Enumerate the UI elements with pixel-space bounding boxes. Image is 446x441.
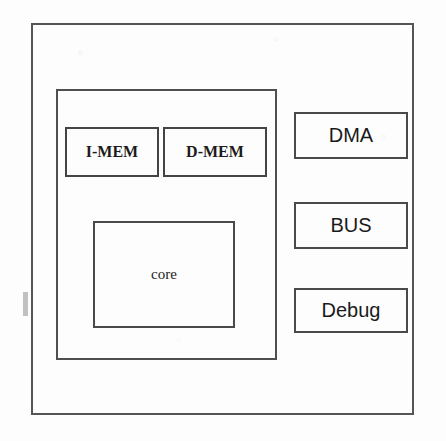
block-core[interactable]: core [93,221,235,328]
block-core-label: core [151,266,177,283]
block-i-mem[interactable]: I-MEM [65,127,159,177]
block-debug[interactable]: Debug [294,288,408,333]
block-d-mem-label: D-MEM [186,143,244,161]
block-dma[interactable]: DMA [294,112,408,159]
block-bus[interactable]: BUS [294,202,408,249]
scan-edge-artifact [23,292,28,316]
block-bus-label: BUS [330,214,371,237]
block-d-mem[interactable]: D-MEM [163,127,267,177]
block-debug-label: Debug [322,299,381,322]
block-dma-label: DMA [329,124,373,147]
diagram-canvas: I-MEM D-MEM core DMA BUS Debug [0,0,446,441]
block-i-mem-label: I-MEM [86,143,138,161]
